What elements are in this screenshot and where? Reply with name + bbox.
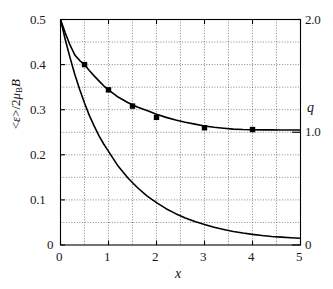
series-mean-energy-markers <box>82 62 255 132</box>
data-point-marker <box>154 115 159 120</box>
data-point-marker <box>130 103 135 108</box>
chart-figure: 0.5 0.4 0.3 0.2 0.1 0 2.0 1.0 0 0 1 2 3 … <box>0 0 333 289</box>
data-point-marker <box>82 62 87 67</box>
data-point-marker <box>106 87 111 92</box>
data-point-marker <box>250 127 255 132</box>
data-point-marker <box>202 125 207 130</box>
plot-area <box>0 0 333 289</box>
